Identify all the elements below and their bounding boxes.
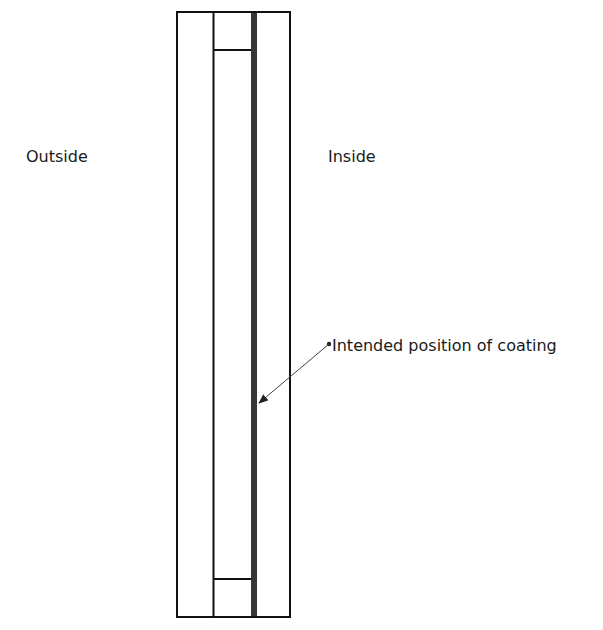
outer-frame [177,12,290,617]
callout-arrow [259,344,329,403]
glazing-cross-section [0,0,603,630]
inside-label: Inside [328,149,376,165]
coating-callout-label: Intended position of coating [332,338,557,354]
outside-label: Outside [26,149,88,165]
coating-band [251,12,257,617]
